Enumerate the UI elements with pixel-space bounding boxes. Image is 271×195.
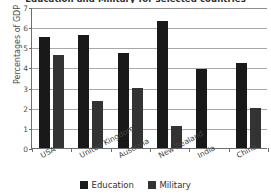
- x-tick-mark: [150, 148, 151, 152]
- x-tick-mark: [229, 148, 230, 152]
- bar-education: [39, 37, 50, 148]
- bar-military: [53, 55, 64, 148]
- bar-group: [229, 8, 268, 148]
- bar-education: [157, 21, 168, 148]
- x-tick-mark: [32, 148, 33, 152]
- bar-group: [71, 8, 110, 148]
- y-axis-title: Percentages of GDP: [13, 0, 22, 100]
- bar-group: [189, 8, 228, 148]
- plot-area: 01234567: [31, 8, 267, 149]
- bar-chart: Education and Military for selected coun…: [0, 0, 271, 195]
- y-tick-label: 3: [23, 84, 28, 93]
- bar-education: [236, 63, 247, 148]
- bar-education: [78, 35, 89, 148]
- chart-legend: EducationMilitary: [0, 180, 271, 190]
- y-tick-label: 6: [23, 24, 28, 33]
- chart-title: Education and Military for selected coun…: [0, 0, 271, 3]
- y-tick-label: 1: [23, 124, 28, 133]
- legend-swatch-icon: [148, 181, 156, 189]
- legend-swatch-icon: [80, 181, 88, 189]
- legend-label: Military: [159, 180, 191, 190]
- x-tick-mark: [71, 148, 72, 152]
- legend-entry: Military: [148, 180, 191, 190]
- bars-layer: [32, 8, 267, 148]
- y-tick-label: 0: [23, 145, 28, 154]
- y-tick-label: 4: [23, 64, 28, 73]
- y-tick-label: 7: [23, 4, 28, 13]
- x-tick-mark: [111, 148, 112, 152]
- x-tick-mark: [268, 148, 269, 152]
- bar-group: [150, 8, 189, 148]
- bar-group: [32, 8, 71, 148]
- y-tick-label: 5: [23, 44, 28, 53]
- legend-label: Education: [92, 180, 134, 190]
- x-tick-mark: [189, 148, 190, 152]
- y-tick-label: 2: [23, 104, 28, 113]
- legend-entry: Education: [80, 180, 134, 190]
